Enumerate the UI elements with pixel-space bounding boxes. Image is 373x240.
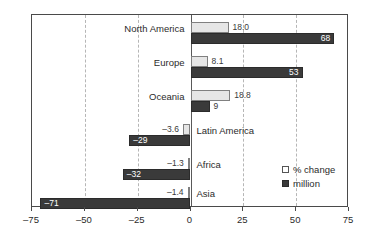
- value-label: –1.3: [167, 158, 184, 169]
- value-label: –3.6: [162, 124, 179, 135]
- bar-mil-north-america: [191, 33, 335, 44]
- value-label: 8.1: [212, 56, 224, 67]
- x-tick-mark: [348, 207, 349, 211]
- value-label: 18.0: [233, 22, 250, 33]
- x-tick-mark: [31, 207, 32, 211]
- bar-pct-africa: [188, 158, 191, 169]
- x-tick-label: 75: [343, 214, 354, 225]
- value-label: 9: [214, 101, 219, 112]
- x-tick-label: 25: [237, 214, 248, 225]
- value-label: 68: [321, 33, 330, 44]
- bar-pct-asia: [188, 187, 191, 198]
- bar-pct-oceania: [191, 90, 231, 101]
- x-tick-mark: [190, 207, 191, 211]
- x-tick-label: –75: [23, 214, 39, 225]
- category-label-europe: Europe: [154, 57, 185, 68]
- legend-label-million: million: [293, 178, 320, 189]
- category-label-africa: Africa: [197, 159, 221, 170]
- value-label: –32: [127, 169, 141, 180]
- category-label-latin-america: Latin America: [197, 125, 255, 136]
- legend-item-million: million: [282, 176, 335, 190]
- x-tick-label: –25: [129, 214, 145, 225]
- dark-square-swatch: [282, 180, 289, 187]
- bar-mil-oceania: [191, 101, 210, 112]
- bar-pct-europe: [191, 56, 208, 67]
- category-label-oceania: Oceania: [149, 91, 184, 102]
- bar-pct-north-america: [191, 22, 229, 33]
- bar-mil-europe: [191, 67, 303, 78]
- x-tick-label: 50: [290, 214, 301, 225]
- gridline: [85, 15, 86, 206]
- category-label-asia: Asia: [197, 188, 215, 199]
- bar-mil-asia: [40, 198, 190, 209]
- x-tick-label: –50: [76, 214, 92, 225]
- value-label: –71: [44, 198, 58, 209]
- x-tick-mark: [137, 207, 138, 211]
- value-label: 18.8: [234, 90, 251, 101]
- legend-item-pct-change: % change: [282, 162, 335, 176]
- chart-legend: % change million: [282, 162, 335, 190]
- value-label: –1.4: [167, 187, 184, 198]
- x-tick-mark: [295, 207, 296, 211]
- x-tick-mark: [84, 207, 85, 211]
- value-label: 53: [289, 67, 298, 78]
- legend-label-pct-change: % change: [293, 164, 335, 175]
- x-tick-mark: [242, 207, 243, 211]
- value-label: –29: [133, 135, 147, 146]
- bar-pct-latin-america: [183, 124, 191, 135]
- bar-chart: 18.068North America8.153Europe18.89Ocean…: [0, 0, 373, 240]
- x-tick-label: 0: [187, 214, 192, 225]
- light-square-swatch: [282, 166, 289, 173]
- category-label-north-america: North America: [124, 23, 184, 34]
